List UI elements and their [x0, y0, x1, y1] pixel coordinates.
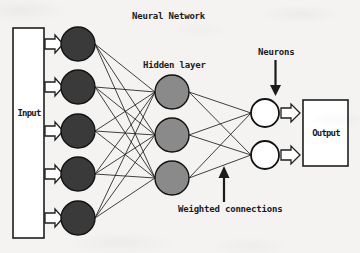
diagram-title: Neural Network: [132, 11, 205, 21]
input-block-arrow-5: [45, 209, 63, 227]
output-box-label: Output: [303, 128, 349, 138]
neurons-pointer-arrow: [270, 60, 281, 96]
hidden-node-3: [155, 161, 189, 195]
diagram-canvas: [0, 0, 360, 253]
input-node-5: [61, 201, 95, 235]
hidden-node-1: [155, 75, 189, 109]
output-block-arrow-1: [281, 104, 300, 122]
input-node-2: [61, 70, 95, 104]
input-layer-nodes: [61, 27, 95, 235]
input-node-3: [61, 114, 95, 148]
neurons-label: Neurons: [258, 47, 295, 57]
hidden-node-2: [155, 118, 189, 152]
input-node-1: [61, 27, 95, 61]
input-block-arrow-1: [45, 35, 63, 53]
neural-network-diagram: Neural Network Hidden layer Neurons Weig…: [0, 0, 360, 253]
output-neuron-1: [251, 99, 279, 127]
input-block-arrow-3: [45, 122, 63, 140]
input-box: [13, 28, 44, 238]
hidden-layer-nodes: [155, 75, 189, 195]
input-block-arrow-4: [45, 165, 63, 183]
input-block-arrow-2: [45, 78, 63, 96]
output-block-arrows: [281, 104, 300, 164]
hidden-layer-label: Hidden layer: [143, 60, 206, 70]
output-neuron-nodes: [251, 99, 279, 169]
input-box-label: Input: [14, 108, 44, 118]
output-neuron-2: [251, 141, 279, 169]
connections-input-to-hidden: [95, 44, 155, 218]
weighted-connections-label: Weighted connections: [178, 204, 282, 214]
output-block-arrow-2: [281, 146, 300, 164]
input-node-4: [61, 157, 95, 191]
connections-hidden-to-neurons: [189, 92, 251, 178]
input-block-arrows: [45, 35, 63, 227]
weighted-connections-pointer-arrow: [219, 166, 230, 202]
